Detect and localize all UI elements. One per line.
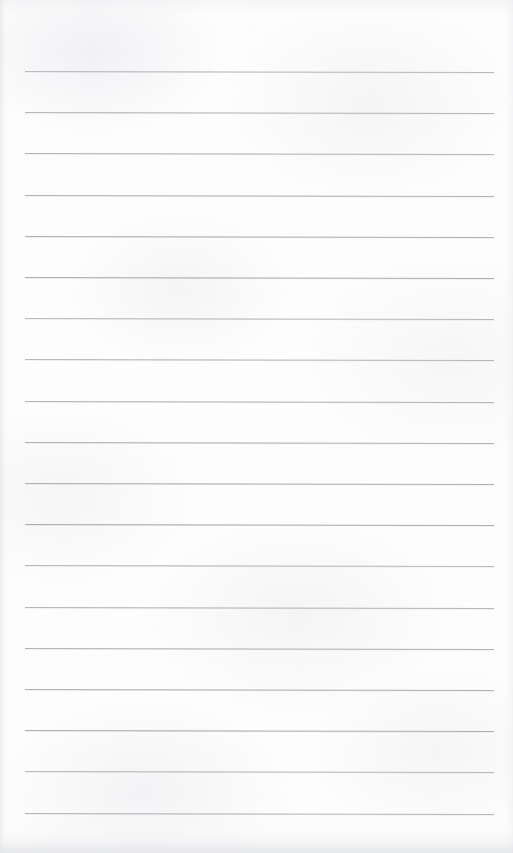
ruled-line <box>25 359 494 361</box>
page-text-content <box>25 71 494 72</box>
ruled-line <box>25 236 494 238</box>
ruled-line <box>25 277 494 279</box>
ruled-line <box>25 318 494 320</box>
scanned-page <box>0 0 513 853</box>
ruled-line <box>25 689 494 691</box>
ruled-line <box>25 565 494 567</box>
ruled-line <box>25 153 494 155</box>
ruled-line <box>25 483 494 485</box>
ruled-line <box>25 401 494 403</box>
ruled-line <box>25 195 494 197</box>
ruled-line <box>25 112 494 114</box>
ruled-lines-group <box>0 0 513 853</box>
ruled-line <box>25 771 494 773</box>
ruled-line <box>25 524 494 526</box>
ruled-line <box>25 648 494 650</box>
ruled-line <box>25 607 494 609</box>
ruled-line <box>25 730 494 732</box>
ruled-line <box>25 813 494 815</box>
ruled-line <box>25 442 494 444</box>
